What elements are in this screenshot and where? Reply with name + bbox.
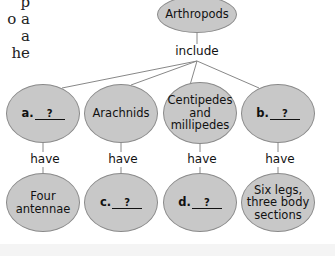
node-label: Arthropods [165, 8, 229, 21]
link-label-include: include [173, 44, 221, 59]
node-six-legs: Six legs, three body sections [241, 173, 315, 232]
node-centipedes-millipedes: Centipedes and millipedes [163, 82, 237, 144]
node-group-a: a. ? [6, 84, 80, 143]
node-trait-d: d. ? [163, 173, 237, 232]
node-trait-c: c. ? [84, 173, 158, 232]
node-label: Six legs, three body sections [246, 184, 310, 222]
link-label-have: have [182, 152, 222, 167]
node-four-antennae: Four antennae [6, 173, 80, 232]
blank-c: c. ? [100, 196, 142, 209]
node-group-b: b. ? [241, 84, 315, 143]
blank-field[interactable]: ? [112, 198, 142, 209]
blank-field[interactable]: ? [35, 109, 65, 120]
blank-b: b. ? [256, 107, 300, 120]
link-label-have: have [103, 152, 143, 167]
blank-d: d. ? [178, 196, 222, 209]
link-label-have: have [25, 152, 65, 167]
blank-a: a. ? [21, 107, 64, 120]
blank-field[interactable]: ? [192, 198, 222, 209]
node-arachnids: Arachnids [84, 84, 158, 143]
node-label: Four antennae [13, 190, 73, 215]
page-bottom-strip [0, 244, 335, 256]
link-label-have: have [260, 152, 300, 167]
node-label: Centipedes and millipedes [168, 94, 233, 132]
blank-field[interactable]: ? [270, 109, 300, 120]
node-label: Arachnids [92, 107, 149, 120]
